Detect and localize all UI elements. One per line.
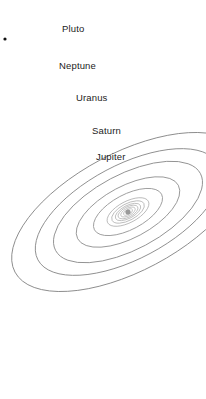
sun-marker xyxy=(125,209,130,214)
orbit-label-pluto: Pluto xyxy=(62,24,84,34)
orbit-label-saturn: Saturn xyxy=(92,126,121,136)
orbit-label-jupiter: Jupiter xyxy=(96,152,126,162)
solar-system-diagram: Pluto Neptune Uranus Saturn Jupiter xyxy=(0,0,206,399)
corner-dot-marker xyxy=(3,37,6,40)
orbit-label-neptune: Neptune xyxy=(59,61,96,71)
orbit-label-uranus: Uranus xyxy=(76,93,108,103)
orbit-canvas xyxy=(0,0,206,399)
